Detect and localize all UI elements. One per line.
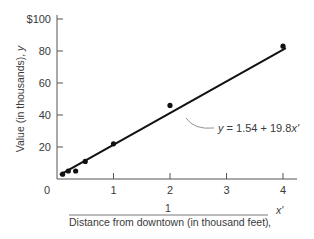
x-axis-ticks: 1234 [110,173,286,196]
data-point [111,141,116,146]
y-axis-ticks: 20406080$100 [27,13,63,153]
x-axis-title-numerator: 1 [165,202,171,214]
y-tick-label: 80 [39,45,51,57]
data-point [83,159,88,164]
x-axis-title-denominator: Distance from downtown (in thousand feet… [69,216,269,228]
y-tick-label: $100 [27,13,51,25]
data-point [167,103,172,108]
y-tick-label: 20 [39,141,51,153]
origin-label: 0 [44,184,50,196]
data-point [73,168,78,173]
y-axis-title: Value (in thousands), y [14,45,26,152]
data-point [66,168,71,173]
x-axis-title-variable: x' [275,204,284,216]
x-tick-label: 1 [110,184,116,196]
y-tick-label: 60 [39,77,51,89]
x-tick-label: 3 [223,184,229,196]
scatter-chart: 20406080$100 1234 0 Value (in thousands)… [0,0,314,239]
x-tick-label: 2 [167,184,173,196]
regression-line [60,48,286,175]
x-tick-label: 4 [280,184,286,196]
equation-leader-line [186,118,214,128]
x-axis-title-comma: , [268,216,271,228]
y-tick-label: 40 [39,109,51,121]
data-point [60,172,65,177]
regression-equation: y = 1.54 + 19.8x' [217,122,300,134]
data-point [280,44,285,49]
